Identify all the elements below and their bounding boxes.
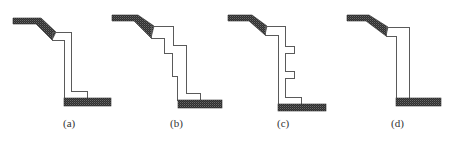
wall-section-outline-b: [151, 26, 200, 100]
caption-b: (b): [170, 117, 183, 129]
figure-b: [112, 15, 222, 108]
figure-d: [347, 15, 441, 106]
caption-c: (c): [277, 117, 289, 129]
backfill-slope-hatch-c: [228, 15, 267, 35]
figure-a: [13, 18, 111, 106]
backfill-slope-hatch-b: [112, 15, 154, 38]
caption-d: (d): [391, 117, 404, 129]
foundation-hatch-c: [278, 104, 326, 111]
wall-section-outline-a: [52, 32, 87, 98]
foundation-hatch-a: [64, 98, 111, 106]
wall-section-outline-d: [386, 27, 409, 98]
backfill-slope-hatch-a: [13, 18, 56, 40]
wall-section-outline-c: [265, 26, 301, 104]
caption-a: (a): [63, 117, 75, 129]
backfill-slope-hatch-d: [347, 15, 388, 36]
foundation-hatch-b: [178, 100, 222, 108]
figure-c: [228, 15, 326, 111]
foundation-hatch-d: [396, 98, 441, 106]
